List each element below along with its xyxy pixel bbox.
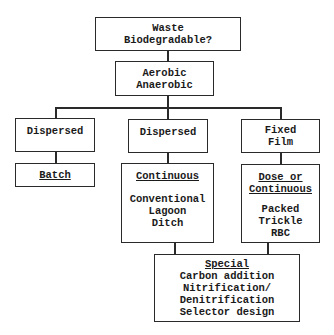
- node-text: Anaerobic: [136, 79, 193, 91]
- node-waste-biodegradable: Waste Biodegradable?: [95, 17, 241, 51]
- connector-dose-special: [267, 243, 269, 254]
- node-dispersed-left: Dispersed: [15, 118, 95, 152]
- node-dose-or-continuous: Dose or Continuous Packed Trickle RBC: [241, 164, 320, 243]
- node-fixed-film: Fixed Film: [241, 119, 320, 153]
- node-text: Lagoon: [149, 205, 187, 217]
- connector-root-metabolism: [167, 50, 169, 61]
- node-text: Trickle: [258, 215, 302, 227]
- node-text: Selector design: [180, 306, 275, 318]
- node-continuous: Continuous Conventional Lagoon Ditch: [121, 163, 214, 243]
- node-batch: Batch: [15, 163, 95, 187]
- node-special: Special Carbon addition Nitrification/ D…: [154, 254, 300, 322]
- node-text: Aerobic: [142, 67, 186, 79]
- node-text: Dispersed: [27, 125, 84, 137]
- node-text: Fixed: [265, 124, 297, 136]
- node-text: Ditch: [152, 217, 184, 229]
- node-heading: Continuous: [136, 170, 199, 182]
- node-text: Carbon addition: [180, 270, 275, 282]
- node-heading: Batch: [39, 169, 71, 181]
- connector-branch-left: [55, 107, 57, 118]
- node-text: Conventional: [130, 193, 206, 205]
- connector-dispersed-continuous: [167, 153, 169, 163]
- node-text: Denitrification: [180, 294, 275, 306]
- node-text: RBC: [271, 227, 290, 239]
- connector-dispersed-batch: [55, 152, 57, 163]
- node-text: Biodegradable?: [124, 34, 212, 46]
- node-text: Dispersed: [140, 126, 197, 138]
- node-text: Nitrification/: [183, 282, 271, 294]
- connector-branch-mid: [167, 107, 169, 119]
- node-text: Film: [268, 136, 293, 148]
- connector-branch-right: [280, 107, 282, 119]
- connector-fixedfilm-dose: [280, 153, 282, 164]
- node-heading: Dose or: [258, 171, 302, 183]
- node-dispersed-mid: Dispersed: [128, 119, 208, 153]
- node-text: Packed: [262, 203, 300, 215]
- node-aerobic-anaerobic: Aerobic Anaerobic: [115, 61, 214, 96]
- connector-continuous-special: [174, 243, 176, 254]
- node-heading: Special: [205, 258, 249, 270]
- node-heading: Continuous: [249, 183, 312, 195]
- node-text: Waste: [152, 22, 184, 34]
